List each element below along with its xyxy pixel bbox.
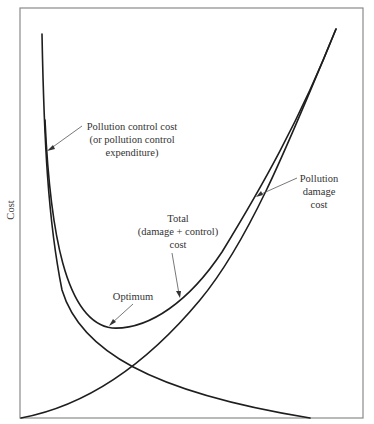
damage-cost-annotation: Pollution damage cost <box>256 173 339 210</box>
total-label-line2: (damage + control) <box>138 226 219 238</box>
total-label-line1: Total <box>167 213 189 224</box>
total-cost-curve <box>45 29 336 328</box>
total-cost-annotation: Total (damage + control) cost <box>138 213 219 298</box>
control-label-line3: expenditure) <box>105 147 159 159</box>
control-label-line2: (or pollution control <box>89 134 174 146</box>
optimum-label: Optimum <box>113 291 153 302</box>
control-label-line1: Pollution control cost <box>87 121 177 132</box>
total-label-line3: cost <box>170 239 187 250</box>
chart: Cost Pollution control cost (or pollutio… <box>0 0 374 424</box>
damage-label-line3: cost <box>311 199 328 210</box>
damage-label-line2: damage <box>303 186 336 197</box>
control-cost-annotation: Pollution control cost (or pollution con… <box>47 121 177 159</box>
y-axis-label: Cost <box>5 200 16 219</box>
damage-label-line1: Pollution <box>300 173 339 184</box>
plot-frame <box>20 8 363 418</box>
